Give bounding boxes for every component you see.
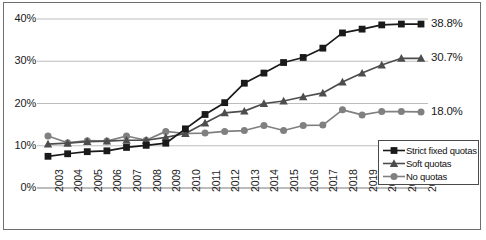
x-axis-tick-label: 2015: [288, 169, 300, 192]
x-axis-tick-label: 2004: [72, 169, 84, 192]
data-point-triangle: [201, 119, 209, 127]
data-point-circle: [319, 122, 326, 129]
chart-legend: Strict fixed quotas Soft quotas No quota…: [378, 140, 479, 185]
data-point-square: [398, 21, 405, 28]
data-point-circle: [241, 127, 248, 134]
x-axis-tick-label: 2009: [170, 169, 182, 192]
data-point-circle: [221, 128, 228, 135]
data-point-square: [64, 150, 71, 157]
data-point-circle: [45, 133, 52, 140]
data-point-circle: [280, 127, 287, 134]
legend-label: Soft quotas: [406, 158, 451, 169]
series-strict-fixed-quotas: [45, 21, 425, 160]
x-axis-tick-label: 2005: [92, 169, 104, 192]
series-end-value-label: 30.7%: [431, 51, 463, 63]
y-axis-tick-label: 0%: [0, 181, 36, 193]
data-point-circle: [339, 106, 346, 113]
data-point-triangle: [338, 78, 346, 86]
data-point-square: [339, 30, 346, 37]
x-axis-tick-label: 2014: [268, 169, 280, 192]
x-axis-tick-label: 2017: [327, 169, 339, 192]
legend-item-soft-quotas[interactable]: Soft quotas: [382, 157, 475, 170]
x-axis-tick-label: 2019: [367, 169, 379, 192]
x-axis-tick-label: 2012: [229, 169, 241, 192]
data-point-circle: [202, 130, 209, 137]
data-point-square: [84, 148, 91, 155]
data-point-square: [162, 140, 169, 147]
legend-label: No quotas: [406, 171, 447, 182]
x-axis-tick-label: 2003: [53, 169, 65, 192]
data-point-square: [359, 26, 366, 33]
x-axis-tick-label: 2011: [210, 170, 222, 192]
data-point-square: [378, 22, 385, 29]
data-point-circle: [260, 122, 267, 129]
data-point-square: [123, 144, 130, 151]
legend-marker-circle-icon: [382, 170, 406, 183]
y-axis-tick-label: 20%: [0, 97, 36, 109]
data-point-square: [261, 70, 268, 77]
chart-screenshot: 0%10%20%30%40% 2003200420052006200720082…: [0, 0, 486, 240]
legend-label: Strict fixed quotas: [406, 145, 477, 156]
series-end-value-label: 38.8%: [431, 17, 463, 29]
data-point-circle: [378, 108, 385, 115]
data-point-square: [300, 54, 307, 61]
x-axis-tick-label: 2007: [131, 169, 143, 192]
y-axis-tick-label: 10%: [0, 139, 36, 151]
data-point-square: [103, 147, 110, 154]
chart-canvas: [0, 0, 486, 240]
data-point-triangle: [319, 89, 327, 97]
series-soft-quotas: [44, 54, 425, 147]
y-axis-tick-label: 30%: [0, 54, 36, 66]
data-point-square: [418, 21, 425, 28]
data-point-square: [391, 147, 398, 154]
data-point-square: [143, 142, 150, 149]
x-axis-tick-label: 2013: [249, 169, 261, 192]
data-point-square: [45, 153, 52, 160]
data-point-square: [202, 111, 209, 118]
x-axis-tick-label: 2016: [308, 169, 320, 192]
legend-marker-triangle-icon: [382, 157, 406, 170]
data-point-circle: [418, 108, 425, 115]
x-axis-tick-label: 2018: [347, 169, 359, 192]
data-point-circle: [359, 111, 366, 118]
legend-item-strict-fixed-quotas[interactable]: Strict fixed quotas: [382, 144, 475, 157]
x-axis-tick-label: 2010: [190, 169, 202, 192]
chart-plot-area: [0, 0, 486, 240]
data-point-circle: [300, 122, 307, 129]
x-axis-tick-label: 2006: [111, 169, 123, 192]
data-point-square: [280, 59, 287, 66]
data-point-circle: [391, 173, 398, 180]
y-axis-tick-label: 40%: [0, 12, 36, 24]
legend-item-no-quotas[interactable]: No quotas: [382, 170, 475, 183]
x-axis-tick-label: 2008: [151, 169, 163, 192]
data-point-square: [241, 80, 248, 87]
data-point-square: [182, 125, 189, 132]
data-point-circle: [398, 108, 405, 115]
data-point-square: [319, 45, 326, 52]
legend-marker-square-icon: [382, 144, 406, 157]
data-point-square: [221, 99, 228, 106]
series-line: [48, 24, 421, 156]
series-end-value-label: 18.0%: [431, 105, 463, 117]
